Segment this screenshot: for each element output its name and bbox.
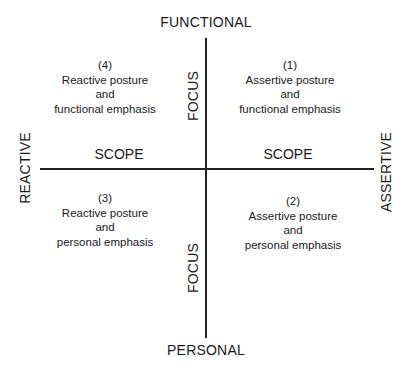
focus-label-bottom: FOCUS (185, 243, 201, 293)
horizontal-axis-line (40, 168, 374, 170)
quadrant-line: Reactive posture (30, 206, 180, 221)
quadrant-line: Reactive posture (30, 73, 180, 88)
quadrant-number: (2) (218, 194, 368, 209)
quadrant-line: and (218, 223, 368, 238)
axis-label-bottom: PERSONAL (167, 342, 245, 358)
axis-label-top: FUNCTIONAL (160, 14, 251, 30)
quadrant-1: (1) Assertive posture and functional emp… (215, 58, 365, 116)
vertical-axis-line (205, 38, 207, 338)
quadrant-number: (3) (30, 191, 180, 206)
quadrant-4: (4) Reactive posture and functional emph… (30, 58, 180, 116)
quadrant-line: personal emphasis (30, 235, 180, 250)
quadrant-line: and (30, 87, 180, 102)
quadrant-3: (3) Reactive posture and personal emphas… (30, 191, 180, 249)
quadrant-2: (2) Assertive posture and personal empha… (218, 194, 368, 252)
scope-label-right: SCOPE (263, 146, 312, 162)
quadrant-line: personal emphasis (218, 238, 368, 253)
quadrant-line: Assertive posture (215, 73, 365, 88)
quadrant-line: functional emphasis (30, 102, 180, 117)
quadrant-line: functional emphasis (215, 102, 365, 117)
quadrant-line: and (30, 220, 180, 235)
quadrant-line: Assertive posture (218, 209, 368, 224)
scope-label-left: SCOPE (94, 146, 143, 162)
focus-label-top: FOCUS (185, 71, 201, 121)
quadrant-line: and (215, 87, 365, 102)
quadrant-number: (1) (215, 58, 365, 73)
axis-label-right: ASSERTIVE (378, 132, 394, 212)
quadrant-number: (4) (30, 58, 180, 73)
